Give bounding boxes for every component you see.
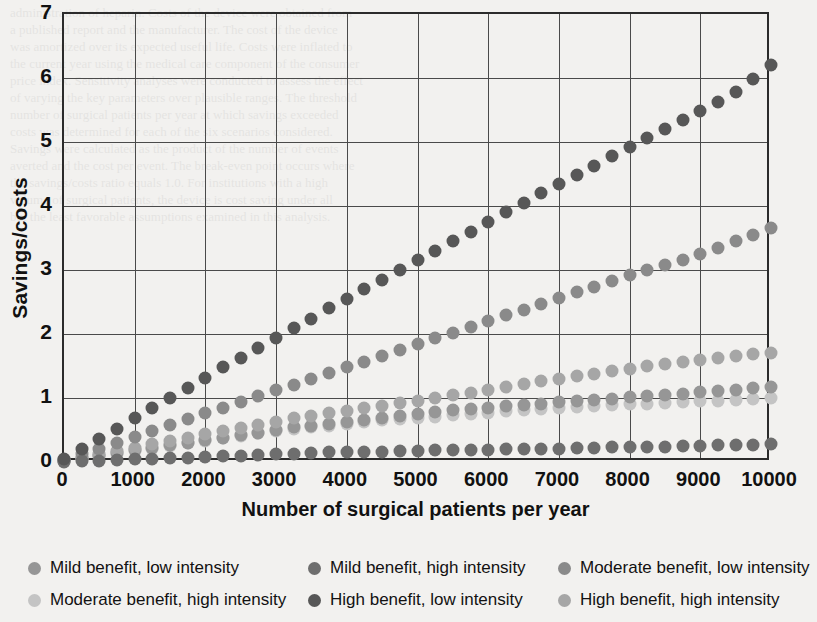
data-point bbox=[393, 264, 406, 277]
legend-item-0: Mild benefit, low intensity bbox=[28, 558, 308, 578]
data-point bbox=[411, 254, 424, 267]
y-tick-label: 1 bbox=[6, 384, 52, 408]
legend-marker-icon bbox=[308, 594, 321, 607]
legend-label: Moderate benefit, low intensity bbox=[580, 558, 810, 578]
x-tick-label: 3000 bbox=[252, 468, 297, 491]
legend-label: High benefit, high intensity bbox=[580, 590, 779, 610]
data-point bbox=[358, 283, 371, 296]
legend-item-1: Mild benefit, high intensity bbox=[308, 558, 558, 578]
data-point bbox=[270, 332, 283, 345]
y-tick-label: 0 bbox=[6, 448, 52, 472]
legend-label: Mild benefit, high intensity bbox=[330, 558, 526, 578]
plot-area bbox=[62, 12, 769, 460]
data-point bbox=[588, 159, 601, 172]
legend-marker-icon bbox=[28, 594, 41, 607]
chart-legend: Mild benefit, low intensityMild benefit,… bbox=[28, 552, 798, 616]
y-axis-ticks: 01234567 bbox=[0, 12, 52, 460]
x-tick-label: 0 bbox=[56, 468, 67, 491]
data-point bbox=[552, 178, 565, 191]
data-point bbox=[128, 412, 141, 425]
data-point bbox=[93, 432, 106, 445]
data-point bbox=[429, 244, 442, 257]
y-tick-label: 4 bbox=[6, 192, 52, 216]
legend-label: Mild benefit, low intensity bbox=[50, 558, 239, 578]
x-tick-label: 5000 bbox=[393, 468, 438, 491]
legend-marker-icon bbox=[308, 562, 321, 575]
x-tick-label: 4000 bbox=[323, 468, 368, 491]
legend-label: Moderate benefit, high intensity bbox=[50, 590, 286, 610]
legend-item-5: High benefit, high intensity bbox=[558, 590, 808, 610]
data-point bbox=[199, 371, 212, 384]
data-point bbox=[446, 235, 459, 248]
data-point bbox=[729, 86, 742, 99]
data-point bbox=[323, 302, 336, 315]
data-point bbox=[181, 381, 194, 394]
x-tick-label: 1000 bbox=[110, 468, 155, 491]
data-point bbox=[747, 72, 760, 85]
x-axis-label: Number of surgical patients per year bbox=[62, 498, 769, 521]
data-point bbox=[464, 225, 477, 238]
data-point bbox=[641, 131, 654, 144]
data-point bbox=[305, 312, 318, 325]
data-point bbox=[75, 443, 88, 456]
data-point bbox=[482, 216, 495, 229]
x-axis-ticks: 0100020003000400050006000700080009000100… bbox=[62, 468, 769, 494]
chart-figure: Savings/costs 01234567 01000200030004000… bbox=[0, 0, 817, 622]
data-point bbox=[535, 187, 548, 200]
legend-marker-icon bbox=[28, 562, 41, 575]
y-tick-label: 6 bbox=[6, 64, 52, 88]
y-tick-label: 2 bbox=[6, 320, 52, 344]
x-tick-label: 2000 bbox=[181, 468, 226, 491]
data-point bbox=[676, 113, 689, 126]
data-point bbox=[146, 402, 159, 415]
data-point bbox=[376, 273, 389, 286]
legend-marker-icon bbox=[558, 562, 571, 575]
data-point bbox=[252, 342, 265, 355]
x-tick-label: 7000 bbox=[535, 468, 580, 491]
data-point bbox=[605, 150, 618, 163]
legend-label: High benefit, low intensity bbox=[330, 590, 523, 610]
y-tick-label: 5 bbox=[6, 128, 52, 152]
y-tick-label: 3 bbox=[6, 256, 52, 280]
x-tick-label: 8000 bbox=[605, 468, 650, 491]
data-point bbox=[499, 206, 512, 219]
data-point bbox=[287, 322, 300, 335]
data-point bbox=[694, 104, 707, 117]
data-point bbox=[765, 59, 778, 72]
data-point bbox=[340, 292, 353, 305]
data-point bbox=[570, 168, 583, 181]
data-point bbox=[517, 196, 530, 209]
legend-item-4: High benefit, low intensity bbox=[308, 590, 558, 610]
x-tick-label: 6000 bbox=[464, 468, 509, 491]
legend-item-3: Moderate benefit, high intensity bbox=[28, 590, 308, 610]
data-point bbox=[164, 392, 177, 405]
data-point bbox=[711, 95, 724, 108]
data-point bbox=[658, 122, 671, 135]
legend-item-2: Moderate benefit, low intensity bbox=[558, 558, 808, 578]
series-0 bbox=[64, 14, 767, 458]
y-tick-label: 7 bbox=[6, 0, 52, 24]
x-tick-label: 9000 bbox=[676, 468, 721, 491]
data-point bbox=[58, 452, 71, 465]
x-tick-label: 10000 bbox=[741, 468, 797, 491]
data-point bbox=[234, 352, 247, 365]
legend-marker-icon bbox=[558, 594, 571, 607]
data-point bbox=[623, 141, 636, 154]
data-point bbox=[217, 361, 230, 374]
data-point bbox=[111, 422, 124, 435]
